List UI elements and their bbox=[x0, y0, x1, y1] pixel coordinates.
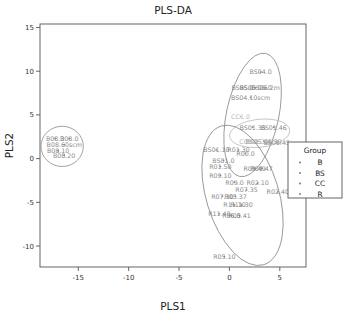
legend-label-cc: CC bbox=[315, 179, 325, 188]
point-label: R09.47 bbox=[250, 165, 272, 172]
point-label: R02.40 bbox=[267, 188, 289, 195]
y-axis-label: PLS2 bbox=[3, 133, 15, 159]
legend-label-bs: BS bbox=[315, 169, 325, 178]
x-tick-label: -15 bbox=[73, 274, 84, 282]
legend-point-marker-cc bbox=[299, 182, 301, 184]
point-label: R01.50 bbox=[209, 163, 231, 170]
point-label: BS01.46 bbox=[261, 124, 287, 131]
legend-point-marker-r bbox=[299, 193, 301, 195]
point-label: R05.10 bbox=[213, 253, 235, 260]
x-tick-label: -5 bbox=[176, 274, 183, 282]
point-label: R11.30 bbox=[230, 201, 252, 208]
point-label: CC1.35 bbox=[246, 138, 269, 145]
legend-point-marker-bs bbox=[299, 172, 301, 174]
point-label: R09.0 bbox=[225, 179, 243, 186]
x-tick-label: -10 bbox=[123, 274, 134, 282]
pls-da-scatter-plot: PLS-DA-15-10-505151050-5-10PLS1PLS2B08.3… bbox=[0, 0, 346, 317]
point-label: BS06.2m bbox=[252, 84, 280, 91]
y-tick-label: 10 bbox=[25, 68, 34, 76]
point-label: BS04.10scm bbox=[231, 94, 270, 101]
point-label: R05.37 bbox=[224, 193, 246, 200]
y-tick-label: 0 bbox=[30, 155, 34, 163]
point-label: R09.10 bbox=[209, 172, 231, 179]
y-tick-label: -10 bbox=[23, 243, 34, 251]
legend-point-marker-b bbox=[299, 161, 301, 163]
legend-title: Group bbox=[304, 146, 327, 155]
point-label: R02.10 bbox=[246, 179, 268, 186]
point-label: R01.30 bbox=[227, 146, 249, 153]
y-tick-label: 15 bbox=[25, 24, 34, 32]
plot-canvas: PLS-DA-15-10-505151050-5-10PLS1PLS2B08.3… bbox=[0, 0, 346, 317]
legend-label-b: B bbox=[317, 158, 322, 167]
x-axis-label: PLS1 bbox=[160, 300, 186, 312]
chart-title: PLS-DA bbox=[154, 4, 193, 16]
point-label: CC1.0 bbox=[231, 113, 250, 120]
x-tick-label: 0 bbox=[227, 274, 231, 282]
y-tick-label: -5 bbox=[27, 199, 34, 207]
x-tick-label: 5 bbox=[278, 274, 282, 282]
legend-label-r: R bbox=[317, 190, 322, 199]
y-tick-label: 5 bbox=[30, 111, 34, 119]
point-label: BS04.0 bbox=[250, 68, 272, 75]
point-label: BS01.10 bbox=[203, 146, 229, 153]
point-label: B08.20 bbox=[53, 152, 75, 159]
point-label: R06.0 bbox=[222, 212, 240, 219]
